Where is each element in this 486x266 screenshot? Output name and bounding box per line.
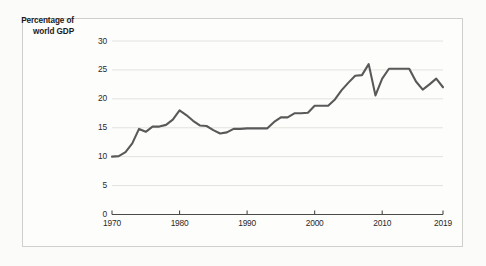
y-axis-tick-label: 25 [85,64,107,74]
x-axis-tick-label: 2010 [362,218,402,228]
data-series-line [112,64,443,157]
x-axis-ticks [112,211,443,215]
y-axis-tick-label: 30 [85,36,107,46]
y-axis-tick-label: 5 [85,180,107,190]
y-axis-tick-label: 20 [85,93,107,103]
gridlines [112,41,443,186]
x-axis-tick-label: 2000 [295,218,335,228]
y-axis-tick-label: 15 [85,122,107,132]
x-axis-tick-label: 2019 [423,218,463,228]
x-axis-tick-label: 1980 [160,218,200,228]
x-axis-tick-label: 1970 [92,218,132,228]
y-axis-tick-label: 10 [85,151,107,161]
x-axis-tick-label: 1990 [227,218,267,228]
figure-background: Percentage of world GDP 051015202530 197… [0,0,486,266]
